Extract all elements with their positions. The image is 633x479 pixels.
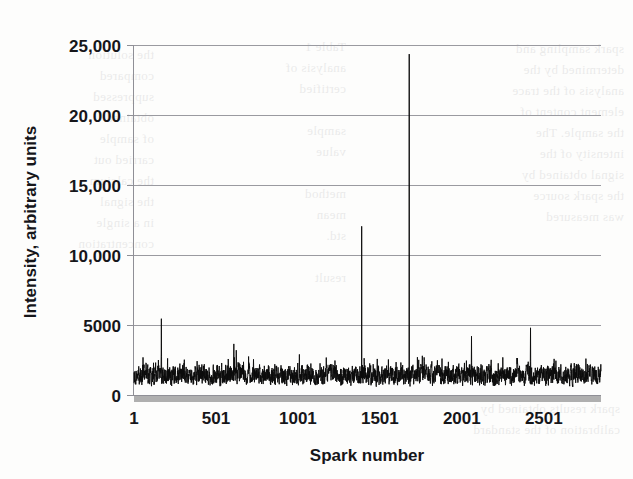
x-tick-label-group: 15011001150120012501 [129, 409, 562, 428]
x-tick-label: 2501 [525, 409, 563, 428]
y-tick-label: 0 [112, 387, 121, 406]
x-tick-label: 2001 [443, 409, 481, 428]
spark-intensity-chart: 0500010,00015,00020,00025,000 1501100115… [0, 0, 633, 479]
x-axis-title: Spark number [310, 446, 425, 465]
x-tick-label: 1 [129, 409, 138, 428]
y-tick-label: 5000 [83, 317, 121, 336]
baseline-scan-smudge [134, 396, 601, 402]
x-tick-label: 1001 [279, 409, 317, 428]
x-tick-label: 501 [202, 409, 230, 428]
y-tick-label-group: 0500010,00015,00020,00025,000 [69, 37, 121, 406]
y-tick-label: 25,000 [69, 37, 121, 56]
x-tick-label: 1501 [361, 409, 399, 428]
intensity-trace [134, 54, 601, 387]
y-tick-label: 20,000 [69, 107, 121, 126]
figure-root: the solution compared suppressed obtaine… [0, 0, 633, 479]
y-tick-label: 10,000 [69, 247, 121, 266]
y-tick-label: 15,000 [69, 177, 121, 196]
y-axis-title: Intensity, arbitrary units [21, 126, 40, 318]
